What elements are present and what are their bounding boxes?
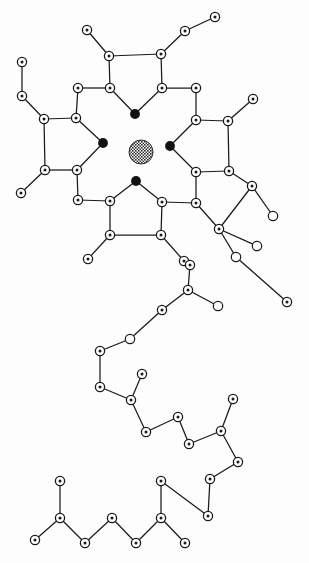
ringed-atom bbox=[82, 25, 91, 34]
ringed-atom bbox=[95, 346, 104, 355]
ringed-atom bbox=[105, 196, 114, 205]
ringed-atom bbox=[16, 188, 25, 197]
ringed-atom bbox=[173, 412, 182, 421]
ringed-atom bbox=[40, 165, 49, 174]
filled-atom bbox=[165, 141, 175, 151]
open-atom bbox=[213, 301, 222, 310]
ringed-atom bbox=[205, 474, 214, 483]
ringed-atom bbox=[247, 181, 256, 190]
ringed-atom bbox=[216, 426, 225, 435]
open-atom bbox=[231, 252, 240, 261]
ringed-atom bbox=[183, 285, 192, 294]
ringed-atom bbox=[156, 49, 165, 58]
ringed-atom bbox=[203, 511, 212, 520]
ringed-atom bbox=[156, 230, 165, 239]
ringed-atom bbox=[210, 12, 219, 21]
ringed-atom bbox=[39, 114, 48, 123]
molecular-structure-figure bbox=[0, 0, 309, 563]
ringed-atom bbox=[191, 167, 200, 176]
ringed-atom bbox=[282, 297, 291, 306]
ringed-atom bbox=[180, 538, 189, 547]
open-atom bbox=[125, 334, 134, 343]
ringed-atom bbox=[72, 165, 81, 174]
ringed-atom bbox=[223, 116, 232, 125]
ringed-atom bbox=[73, 195, 82, 204]
open-atom bbox=[252, 241, 261, 250]
structure-svg bbox=[0, 0, 309, 563]
ringed-atom bbox=[228, 394, 237, 403]
ringed-atom bbox=[104, 51, 113, 60]
ringed-atom bbox=[214, 224, 223, 233]
ringed-atom bbox=[224, 166, 233, 175]
ringed-atom bbox=[191, 198, 200, 207]
ringed-atom bbox=[17, 57, 26, 66]
ringed-atom bbox=[191, 115, 200, 124]
ringed-atom bbox=[131, 538, 140, 547]
ringed-atom bbox=[105, 230, 114, 239]
ringed-atom bbox=[157, 83, 166, 92]
figure-background bbox=[0, 0, 309, 563]
ringed-atom bbox=[156, 476, 165, 485]
ringed-atom bbox=[185, 260, 194, 269]
ringed-atom bbox=[156, 513, 165, 522]
core-atom bbox=[129, 140, 153, 164]
ringed-atom bbox=[184, 439, 193, 448]
ringed-atom bbox=[83, 254, 92, 263]
ringed-atom bbox=[180, 26, 189, 35]
ringed-atom bbox=[107, 513, 116, 522]
open-atom bbox=[268, 211, 277, 220]
ringed-atom bbox=[73, 83, 82, 92]
ringed-atom bbox=[71, 113, 80, 122]
ringed-atom bbox=[137, 369, 146, 378]
ringed-atom bbox=[248, 94, 257, 103]
ringed-atom bbox=[105, 83, 114, 92]
ringed-atom bbox=[233, 457, 242, 466]
ringed-atom bbox=[80, 538, 89, 547]
ringed-atom bbox=[30, 535, 39, 544]
filled-atom bbox=[131, 176, 141, 186]
filled-atom bbox=[130, 109, 140, 119]
ringed-atom bbox=[157, 197, 166, 206]
filled-atom bbox=[98, 138, 108, 148]
ringed-atom bbox=[55, 476, 64, 485]
ringed-atom bbox=[141, 427, 150, 436]
ringed-atom bbox=[55, 513, 64, 522]
ringed-atom bbox=[126, 395, 135, 404]
ringed-atom bbox=[157, 305, 166, 314]
ringed-atom bbox=[17, 91, 26, 100]
ringed-atom bbox=[191, 83, 200, 92]
ringed-atom bbox=[95, 382, 104, 391]
